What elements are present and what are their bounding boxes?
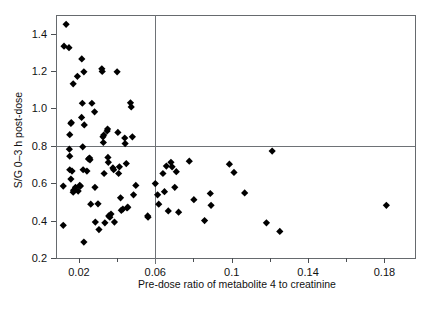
data-point-marker xyxy=(91,108,98,115)
data-point-marker xyxy=(159,170,166,177)
data-point-marker xyxy=(94,200,101,207)
data-point-marker xyxy=(116,163,123,170)
data-point-marker xyxy=(95,226,102,233)
data-point-marker xyxy=(70,80,77,87)
data-point-marker xyxy=(155,201,162,208)
data-point-marker xyxy=(123,160,130,167)
data-point-marker xyxy=(269,147,276,154)
data-point-marker xyxy=(130,191,137,198)
plot-frame-rect xyxy=(57,16,416,259)
data-point-marker xyxy=(63,21,70,28)
y-tick-label: 0.4 xyxy=(32,215,47,227)
data-point-marker xyxy=(80,68,87,75)
data-points xyxy=(60,21,390,246)
data-point-marker xyxy=(207,202,214,209)
data-point-marker xyxy=(165,207,172,214)
data-point-marker xyxy=(201,217,208,224)
y-tick-label: 1.2 xyxy=(32,65,47,77)
data-point-marker xyxy=(101,170,108,177)
data-point-marker xyxy=(226,161,233,168)
data-point-marker xyxy=(152,180,159,187)
data-point-marker xyxy=(67,120,74,127)
data-point-marker xyxy=(263,219,270,226)
plot-frame xyxy=(57,16,416,259)
data-point-marker xyxy=(111,219,118,226)
data-point-marker xyxy=(114,68,121,75)
data-point-marker xyxy=(92,219,99,226)
x-tick-label: 0.1 xyxy=(224,266,239,278)
data-point-marker xyxy=(79,100,86,107)
data-point-marker xyxy=(117,194,124,201)
y-axis-title: S/G 0–3 h post-dose xyxy=(12,92,24,188)
x-tick-label: 0.02 xyxy=(68,266,89,278)
data-point-marker xyxy=(100,139,107,146)
data-point-marker xyxy=(105,159,112,166)
data-point-marker xyxy=(91,184,98,191)
data-point-marker xyxy=(114,129,121,136)
data-point-marker xyxy=(81,121,88,128)
reference-lines xyxy=(56,15,415,264)
data-point-marker xyxy=(173,168,180,175)
data-point-marker xyxy=(161,188,168,195)
y-tick-label: 0.8 xyxy=(32,140,47,152)
y-tick-label: 0.6 xyxy=(32,177,47,189)
data-point-marker xyxy=(132,182,139,189)
y-tick-label: 1.0 xyxy=(32,102,47,114)
data-point-marker xyxy=(87,201,94,208)
data-point-marker xyxy=(186,158,193,165)
x-tick-label: 0.06 xyxy=(145,266,166,278)
data-point-marker xyxy=(88,100,95,107)
data-point-marker xyxy=(207,190,214,197)
data-point-marker xyxy=(67,176,74,183)
data-point-marker xyxy=(115,170,122,177)
data-point-marker xyxy=(171,184,178,191)
data-point-marker xyxy=(230,169,237,176)
data-point-marker xyxy=(78,55,85,62)
x-tick-label: 0.14 xyxy=(297,266,318,278)
data-point-marker xyxy=(66,153,73,160)
data-point-marker xyxy=(79,143,86,150)
data-point-marker xyxy=(60,182,67,189)
data-point-marker xyxy=(241,189,248,196)
x-tick-label: 0.18 xyxy=(374,266,395,278)
data-point-marker xyxy=(74,73,81,80)
data-point-marker xyxy=(175,209,182,216)
data-point-marker xyxy=(190,196,197,203)
scatter-plot-figure: 0.020.060.10.140.18 0.20.40.60.81.01.21.… xyxy=(0,0,431,309)
y-tick-label: 0.2 xyxy=(32,252,47,264)
y-tick-label: 1.4 xyxy=(32,28,47,40)
x-axis-tick-labels: 0.020.060.10.140.18 xyxy=(68,266,395,278)
data-point-marker xyxy=(78,114,85,121)
data-point-marker xyxy=(129,133,136,140)
data-point-marker xyxy=(276,228,283,235)
y-axis-tick-labels: 0.20.40.60.81.01.21.4 xyxy=(32,28,47,264)
data-point-marker xyxy=(80,239,87,246)
data-point-marker xyxy=(60,222,67,229)
data-point-marker xyxy=(66,131,73,138)
scatter-plot-canvas: 0.020.060.10.140.18 0.20.40.60.81.01.21.… xyxy=(0,0,431,309)
data-point-marker xyxy=(383,202,390,209)
x-axis-title: Pre-dose ratio of metabolite 4 to creati… xyxy=(138,278,336,290)
data-point-marker xyxy=(101,219,108,226)
